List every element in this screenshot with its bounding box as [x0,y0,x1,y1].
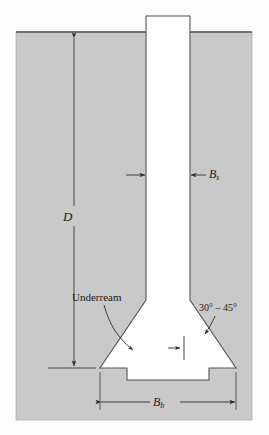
shaft-diameter-label: Bs [209,168,220,182]
depth-label: D [63,210,72,223]
underream-label: Underream [72,292,121,303]
bell-diameter-label: Bb [153,396,164,410]
drilled-shaft-cross-section-figure [0,0,269,435]
bell-angle-label: 30° – 45° [199,303,237,313]
bell-diameter-subscript: b [160,401,164,410]
shaft-diameter-subscript: s [216,173,219,182]
